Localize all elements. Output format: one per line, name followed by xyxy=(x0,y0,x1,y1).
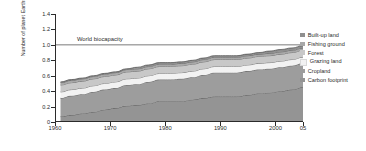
legend-swatch-icon xyxy=(300,42,305,47)
y-axis-title: Number of planet Earths xyxy=(20,0,26,82)
chart-container: Number of planet Earths 00.20.40.60.81.0… xyxy=(0,0,366,151)
y-tick xyxy=(51,76,55,77)
x-tick-label: 1960 xyxy=(49,125,62,131)
y-tick xyxy=(51,107,55,108)
chart-legend: Built-up landFishing groundForestGrazing… xyxy=(300,32,366,85)
legend-label: Fishing ground xyxy=(308,41,345,48)
y-tick-label: 1.2 xyxy=(42,26,50,32)
legend-item: Grazing land xyxy=(300,58,366,65)
y-tick xyxy=(51,29,55,30)
legend-label: Carbon footprint xyxy=(308,77,348,84)
stacked-area-plot xyxy=(55,14,303,122)
legend-swatch-icon xyxy=(300,78,305,83)
biocapacity-annotation-label: World biocapacity xyxy=(77,36,123,42)
y-tick-label: 1.0 xyxy=(42,42,50,48)
legend-item: Built-up land xyxy=(300,32,366,39)
y-tick-label: 0.4 xyxy=(42,88,50,94)
y-tick xyxy=(51,91,55,92)
legend-label: Built-up land xyxy=(308,32,339,39)
x-axis-line xyxy=(55,121,303,122)
y-tick-label: 0.6 xyxy=(42,73,50,79)
y-tick xyxy=(51,45,55,46)
y-tick-label: 0.2 xyxy=(42,104,50,110)
legend-label: Cropland xyxy=(308,68,331,75)
x-tick-label: 05 xyxy=(300,125,306,131)
y-tick-label: 0.8 xyxy=(42,57,50,63)
legend-item: Fishing ground xyxy=(300,41,366,48)
legend-swatch-icon xyxy=(300,50,305,55)
y-axis-line xyxy=(55,14,56,122)
y-tick xyxy=(51,60,55,61)
plot-area: 00.20.40.60.81.01.21.4 19601970198019902… xyxy=(55,14,303,122)
legend-item: Forest xyxy=(300,50,366,57)
legend-item: Cropland xyxy=(300,68,366,75)
x-tick-label: 1990 xyxy=(214,125,227,131)
legend-swatch-icon xyxy=(300,69,305,74)
legend-label: Forest xyxy=(308,50,324,57)
x-tick-label: 1980 xyxy=(159,125,172,131)
legend-label: Grazing land xyxy=(310,58,342,65)
x-tick-label: 2000 xyxy=(269,125,282,131)
legend-swatch-icon xyxy=(300,33,305,38)
y-tick xyxy=(51,14,55,15)
y-tick-label: 1.4 xyxy=(42,11,50,17)
x-tick-label: 1970 xyxy=(104,125,117,131)
legend-item: Carbon footprint xyxy=(300,77,366,84)
legend-swatch-icon xyxy=(300,59,307,66)
